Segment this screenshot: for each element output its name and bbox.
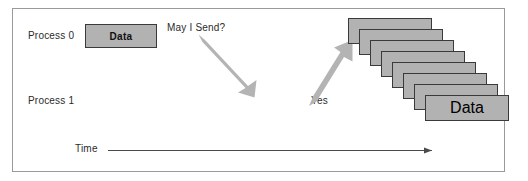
may-i-send-label: May I Send?: [167, 22, 225, 33]
packet-front-box: Data: [425, 95, 509, 121]
sender-data-box: Data: [85, 24, 157, 48]
diagram-canvas: Process 0 Process 1 Data May I Send? Yes…: [0, 0, 528, 181]
sender-data-box-label: Data: [110, 31, 133, 42]
process-1-label: Process 1: [28, 95, 74, 106]
packet-front-box-label: Data: [450, 99, 484, 117]
process-0-label: Process 0: [28, 30, 74, 41]
yes-label: Yes: [311, 95, 328, 106]
time-axis-label: Time: [75, 143, 98, 154]
packet-stack: Data: [348, 18, 508, 126]
